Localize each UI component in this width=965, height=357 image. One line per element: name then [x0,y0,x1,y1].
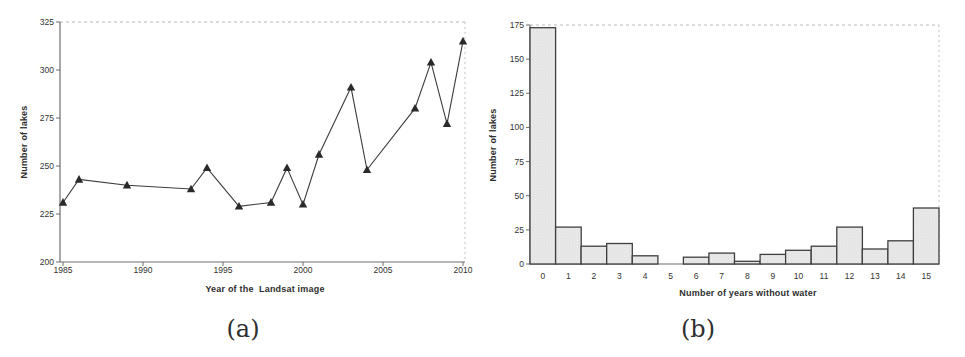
y-tick-label: 50 [515,191,525,201]
y-tick-label: 300 [40,65,54,75]
x-tick-label: 2010 [454,265,473,275]
histogram-bar [913,208,939,264]
histogram-bar [735,261,761,264]
histogram-bar [530,28,556,264]
x-category-label: 0 [540,271,545,281]
histogram-bar [607,244,633,265]
triangle-marker [459,37,467,45]
triangle-marker [443,119,451,127]
x-category-label: 9 [770,271,775,281]
y-tick-label: 275 [40,113,54,123]
x-tick-label: 2000 [294,265,313,275]
x-category-label: 6 [694,271,699,281]
histogram-bar [811,246,837,264]
histogram-bar [837,227,863,264]
x-tick-label: 1995 [214,265,233,275]
bar-chart-svg: 0255075100125150175012345678910111213141… [482,0,965,357]
x-category-label: 1 [566,271,571,281]
x-category-label: 4 [643,271,648,281]
line-chart-plot-area: 2002252502753003251985199019952000200520… [40,17,473,275]
y-tick-label: 125 [510,88,524,98]
x-category-label: 13 [870,271,880,281]
panel-b-caption: (b) [681,315,715,343]
x-category-label: 12 [845,271,855,281]
lakes-trend-line [63,41,463,206]
x-category-label: 11 [820,271,829,281]
x-category-label: 7 [719,271,724,281]
panel-a: 2002252502753003251985199019952000200520… [0,0,482,357]
histogram-bar [862,249,888,264]
x-category-label: 15 [921,271,931,281]
bar-chart-x-axis-title: Number of years without water [679,288,817,298]
bar-chart-plot-area: 0255075100125150175012345678910111213141… [510,20,939,281]
line-chart-y-axis-title: Number of lakes [19,105,29,178]
histogram-bar [632,256,658,264]
x-category-label: 2 [592,271,597,281]
triangle-marker [315,150,323,158]
x-category-label: 5 [668,271,673,281]
line-chart-x-axis-title: Year of the Landsat image [205,284,324,294]
x-tick-label: 1985 [54,265,73,275]
x-category-label: 3 [617,271,622,281]
y-tick-label: 75 [515,157,525,167]
triangle-marker [427,58,435,66]
histogram-bar [581,246,607,264]
y-tick-label: 150 [510,54,524,64]
y-tick-label: 225 [40,209,54,219]
x-category-label: 8 [745,271,750,281]
histogram-bar [760,254,786,264]
figure-two-panel-charts: 2002252502753003251985199019952000200520… [0,0,965,357]
panel-a-caption: (a) [226,315,259,343]
x-tick-label: 1990 [134,265,153,275]
y-tick-label: 25 [515,225,525,235]
line-chart-svg: 2002252502753003251985199019952000200520… [0,0,482,357]
x-category-label: 10 [794,271,804,281]
histogram-bar [888,241,914,264]
histogram-bar [786,250,812,264]
triangle-marker [75,175,83,183]
triangle-marker [411,104,419,112]
x-tick-label: 2005 [374,265,393,275]
y-tick-label: 250 [40,161,54,171]
histogram-bar [709,253,735,264]
triangle-marker [299,200,307,208]
histogram-bar [683,257,709,264]
y-tick-label: 200 [40,257,54,267]
y-tick-label: 0 [519,259,524,269]
panel-b: 0255075100125150175012345678910111213141… [482,0,965,357]
y-tick-label: 100 [510,122,524,132]
y-tick-label: 175 [510,20,524,30]
x-category-label: 14 [896,271,906,281]
triangle-marker [347,83,355,91]
bar-chart-y-axis-title: Number of lakes [488,108,498,181]
y-tick-label: 325 [40,17,54,27]
triangle-marker [267,198,275,206]
triangle-marker [283,164,291,172]
histogram-bar [556,227,582,264]
triangle-marker [203,164,211,172]
